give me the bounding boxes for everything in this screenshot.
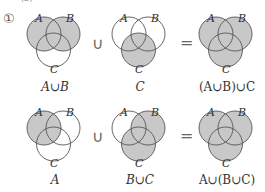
svg-text:A: A — [206, 106, 215, 119]
svg-text:B: B — [237, 12, 246, 25]
svg-text:B: B — [65, 106, 74, 119]
svg-text:C: C — [135, 63, 144, 76]
svg-text:B: B — [150, 12, 159, 25]
equals-operator: = — [180, 33, 193, 52]
venn-a-union-bc: A B C — [197, 102, 257, 170]
svg-text:B: B — [150, 106, 159, 119]
svg-text:A: A — [119, 106, 128, 119]
svg-text:A: A — [206, 12, 215, 25]
venn-b-union-c: A B C — [110, 102, 170, 170]
equals-operator-2: = — [180, 126, 193, 145]
label-b: B — [65, 12, 74, 25]
venn-c: A B C — [110, 8, 170, 76]
svg-text:C: C — [222, 63, 231, 76]
caption-ab-union-c: (A∪B)∪C — [172, 80, 265, 94]
venn-a-union-b: A B C — [25, 8, 85, 76]
svg-text:B: B — [237, 106, 246, 119]
svg-text:C: C — [222, 157, 231, 170]
label-c: C — [50, 63, 59, 76]
label-a: A — [34, 12, 43, 25]
svg-text:A: A — [34, 106, 43, 119]
svg-text:C: C — [135, 157, 144, 170]
caption-a-union-bc: A∪(B∪C) — [172, 173, 265, 187]
union-operator-2: ∪ — [92, 127, 104, 146]
venn-a: A B C — [25, 102, 85, 170]
svg-text:A: A — [119, 12, 128, 25]
svg-text:C: C — [50, 157, 59, 170]
venn-a-union-b-union-c: A B C — [197, 8, 257, 76]
union-operator: ∪ — [92, 34, 104, 53]
partial-heading: (2) — [21, 0, 32, 3]
problem-number: ① — [3, 11, 15, 26]
